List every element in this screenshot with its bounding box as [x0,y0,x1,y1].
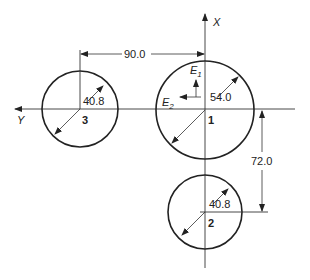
circle-2: 40.8 2 [168,175,268,249]
circle-2-number: 2 [208,217,214,229]
circle-3-diameter-arrow-lower [55,109,80,134]
circle-1-number: 1 [208,114,214,126]
x-axis-label: X [212,16,221,28]
circle-2-diameter-arrow-lower [182,212,205,235]
circle-1-diameter-arrow-lower [172,110,205,143]
dimension-horizontal-label: 90.0 [124,48,145,60]
dimension-horizontal: 90.0 [81,48,204,60]
y-axis-label: Y [17,114,25,126]
circle-3: 40.8 3 [42,50,118,147]
dimension-vertical: 72.0 [251,111,272,211]
circle-3-diameter-label: 40.8 [83,95,104,107]
circle-2-diameter-label: 40.8 [209,198,230,210]
e1-label: E1 [190,64,202,79]
dimension-vertical-label: 72.0 [251,155,272,167]
x-axis: X [205,14,221,268]
circle-layout-diagram: X Y 40.8 3 54.0 1 E1 E2 40.8 2 [0,0,310,280]
circle-1-diameter-label: 54.0 [210,91,231,103]
circle-3-number: 3 [82,114,88,126]
unit-vectors: E1 E2 [162,64,202,111]
